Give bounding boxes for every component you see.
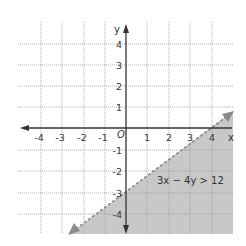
y-tick: -4	[113, 209, 122, 220]
y-tick: 4	[116, 39, 122, 50]
x-tick: -3	[55, 132, 64, 143]
x-axis-label: x	[228, 132, 234, 143]
origin-label: O	[117, 129, 125, 140]
x-tick: 4	[209, 132, 215, 143]
x-axis-left-arrow-icon	[20, 125, 29, 131]
x-tick: -1	[98, 132, 107, 143]
x-tick: 2	[166, 132, 172, 143]
graph-svg: y x O -4 -3 -2 -1 1 2 3 4 4 3 2 1 -1 -2 …	[0, 0, 246, 246]
y-tick: -3	[113, 188, 122, 199]
coordinate-graph: y x O -4 -3 -2 -1 1 2 3 4 4 3 2 1 -1 -2 …	[0, 0, 246, 246]
y-tick: -2	[113, 166, 122, 177]
y-tick: 3	[116, 60, 122, 71]
y-axis-label: y	[114, 24, 120, 35]
x-tick: 3	[187, 132, 193, 143]
x-tick: -2	[77, 132, 86, 143]
x-tick: 1	[144, 132, 150, 143]
inequality-label: 3x − 4y > 12	[157, 175, 224, 186]
x-tick: -4	[34, 132, 43, 143]
y-axis-up-arrow-icon	[123, 24, 129, 33]
y-tick: 1	[116, 102, 122, 113]
y-tick: 2	[116, 81, 122, 92]
y-tick: -1	[113, 145, 122, 156]
